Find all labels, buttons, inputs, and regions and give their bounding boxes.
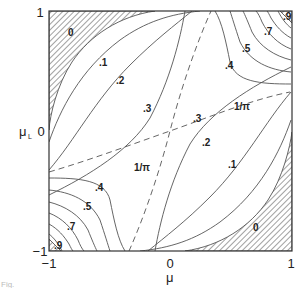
contour-label-lower-left: .5	[83, 201, 92, 212]
contour-label-lower-right: .3	[193, 113, 202, 124]
y-tick-middle: 0	[37, 124, 44, 139]
y-axis-label-subscript: L	[28, 133, 32, 140]
contour-label-upper-left: .2	[116, 75, 125, 86]
contour-lines	[49, 11, 291, 251]
plot-area	[49, 11, 292, 251]
contour-label-upper-right: .7	[264, 26, 273, 37]
contour-line-0.5-mirror	[230, 11, 291, 72]
label-inv-pi-steep: 1/π	[134, 162, 150, 173]
x-tick-middle: 0	[166, 256, 173, 271]
contour-label-lower-right: .1	[228, 159, 237, 170]
contour-label-upper-right: .9	[283, 11, 292, 22]
contour-label-lower-left: .7	[67, 221, 76, 232]
contour-label-upper-left: .1	[99, 57, 108, 68]
contour-label-lower-left: .9	[54, 240, 63, 251]
contour-label-lower-left: .4	[95, 182, 104, 193]
contour-label-lower-right: 0	[253, 222, 259, 233]
x-axis-label: μ	[166, 270, 174, 285]
y-axis-label: μ	[19, 124, 27, 139]
label-inv-pi-shallow: 1/π	[234, 101, 250, 112]
y-tick-top: 1	[36, 5, 43, 20]
contour-label-upper-left: 0	[68, 27, 74, 38]
x-tick-left: −1	[42, 256, 57, 271]
dashed-curve-steep	[129, 11, 211, 251]
contour-label-lower-right: .2	[202, 137, 211, 148]
contour-label-upper-left: .3	[143, 103, 152, 114]
figure-caption: Fig.	[1, 280, 14, 288]
contour-plot: 0.1.2.3.4.5.7.9.3.2.10.4.5.7.9 1/π 1/π 1…	[0, 0, 305, 288]
contour-label-upper-right: .4	[225, 60, 234, 71]
contour-label-upper-right: .5	[242, 43, 251, 54]
x-tick-right: 1	[287, 256, 294, 271]
hatched-region-upper-left	[49, 11, 155, 130]
